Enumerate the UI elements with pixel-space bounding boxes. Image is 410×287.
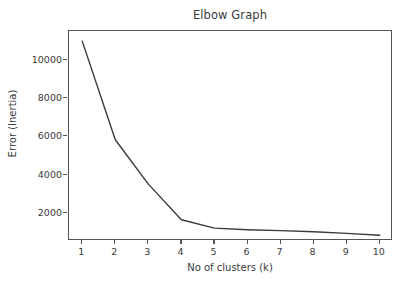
x-tick-label: 1 [78, 246, 84, 257]
y-tick-mark [63, 212, 67, 213]
y-tick-mark [63, 135, 67, 136]
x-tick-mark [379, 240, 380, 244]
x-tick-mark [247, 240, 248, 244]
y-tick-label: 10000 [32, 53, 62, 64]
chart-title: Elbow Graph [68, 8, 392, 22]
x-tick-label: 8 [310, 246, 316, 257]
x-tick-mark [213, 240, 214, 244]
y-tick-label: 8000 [38, 92, 62, 103]
y-tick-label: 4000 [38, 168, 62, 179]
x-tick-mark [114, 240, 115, 244]
y-tick-mark [63, 174, 67, 175]
x-tick-label: 3 [144, 246, 150, 257]
plot-area [68, 30, 392, 240]
x-tick-label: 4 [177, 246, 183, 257]
line-series-svg [69, 31, 393, 241]
inertia-line [82, 41, 380, 235]
x-tick-mark [280, 240, 281, 244]
x-axis-label: No of clusters (k) [68, 262, 392, 273]
chart-figure: Elbow Graph Error (Inertia) 200040006000… [0, 0, 410, 287]
x-tick-label: 6 [243, 246, 249, 257]
x-tick-mark [180, 240, 181, 244]
x-tick-label: 7 [277, 246, 283, 257]
x-tick-label: 2 [111, 246, 117, 257]
x-tick-label: 5 [210, 246, 216, 257]
x-tick-mark [313, 240, 314, 244]
x-tick-mark [81, 240, 82, 244]
y-tick-label: 6000 [38, 130, 62, 141]
x-tick-label: 10 [373, 246, 385, 257]
x-tick-mark [147, 240, 148, 244]
y-tick-label: 2000 [38, 206, 62, 217]
x-tick-label: 9 [343, 246, 349, 257]
x-tick-mark [346, 240, 347, 244]
y-tick-mark [63, 59, 67, 60]
y-axis-tick-labels: 200040006000800010000 [14, 30, 62, 240]
y-tick-mark [63, 97, 67, 98]
x-axis-tick-labels: 12345678910 [0, 246, 410, 260]
